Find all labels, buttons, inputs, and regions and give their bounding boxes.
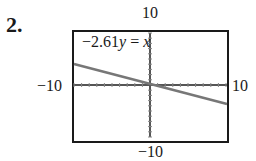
- equation-label: −2.61y = x: [82, 34, 150, 50]
- eq-coefficient: −2.61: [82, 33, 119, 50]
- eq-var-x: x: [143, 33, 150, 50]
- eq-equals: =: [126, 33, 143, 50]
- graph-plot: [0, 0, 256, 161]
